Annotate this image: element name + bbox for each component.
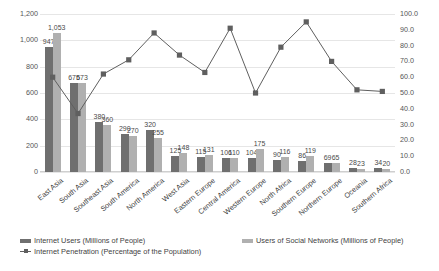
right-axis-tick-label: 40.0 [400,105,414,113]
line-series-penetration [40,14,395,172]
right-axis-tick-label: 90.0 [400,26,414,34]
right-axis-tick-label: 20.0 [400,136,414,144]
legend-item-social-networks: Users of Social Networks (Millions of Pe… [242,236,403,245]
left-axis-tick-label: 400 [26,115,38,123]
penetration-data-point [50,75,55,80]
legend-label-social-networks: Users of Social Networks (Millions of Pe… [256,236,403,245]
penetration-line-path [53,22,383,114]
penetration-data-point [126,57,131,62]
penetration-data-point [253,90,258,95]
penetration-data-point [152,30,157,35]
penetration-data-point [354,87,359,92]
penetration-data-point [177,52,182,57]
line-marker-icon [20,249,31,254]
gridline [40,172,395,173]
right-axis-tick-label: 70.0 [400,57,414,65]
left-axis-tick-label: 600 [26,89,38,97]
chart-legend: Internet Users (Millions of People) User… [20,236,430,262]
left-axis-tick-label: 0 [34,168,38,176]
right-axis-tick-label: 100.0 [400,10,418,18]
penetration-data-point [101,71,106,76]
right-axis-tick-label: 10.0 [400,152,414,160]
chart-root: 02004006008001,0001,200 0.010.020.030.04… [0,0,439,271]
right-axis-tick-label: 30.0 [400,121,414,129]
bar-swatch-dark-icon [20,239,31,243]
legend-label-internet-users: Internet Users (Millions of People) [34,236,145,245]
left-axis-tick-label: 200 [26,142,38,150]
penetration-data-point [329,59,334,64]
category-axis-labels: East AsiaSouth AsiaSoutheast AsiaSouth A… [40,174,395,224]
penetration-data-point [75,111,80,116]
plot-area: 9471,05367567338036029027032025512514811… [40,14,395,172]
left-axis-tick-label: 1,200 [20,10,38,18]
right-axis-tick-label: 60.0 [400,73,414,81]
right-axis-tick-label: 80.0 [400,42,414,50]
penetration-data-point [202,70,207,75]
penetration-data-point [304,19,309,24]
legend-item-internet-users: Internet Users (Millions of People) [20,236,145,245]
penetration-data-point [380,89,385,94]
penetration-data-point [278,45,283,50]
penetration-data-point [228,26,233,31]
bar-swatch-light-icon [242,239,253,243]
left-axis-tick-label: 800 [26,63,38,71]
legend-label-internet-penetration: Internet Penetration (Percentage of the … [34,247,201,256]
right-axis-tick-label: 0.0 [400,168,410,176]
right-axis-tick-label: 50.0 [400,89,414,97]
legend-item-internet-penetration: Internet Penetration (Percentage of the … [20,247,201,256]
